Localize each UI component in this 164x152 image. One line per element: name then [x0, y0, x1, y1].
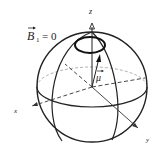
x-axis-arrowhead: [32, 102, 38, 106]
field-vector-arrowhead: [33, 27, 36, 30]
x-axis-label: x: [13, 107, 18, 115]
moment-label: μ: [95, 72, 101, 83]
y-axis-label: y: [145, 136, 150, 144]
bloch-sphere-diagram: z x y B 1 = 0 μ: [0, 0, 164, 152]
precession-circle: [75, 37, 105, 53]
magnetic-moment-arrowhead: [96, 54, 101, 62]
field-value: = 0: [42, 30, 57, 42]
moment-vector-arrowhead: [102, 70, 105, 72]
field-label: B: [27, 29, 35, 43]
z-axis-label: z: [88, 7, 93, 16]
x-axis: [32, 87, 92, 106]
meridian-left: [52, 32, 92, 141]
y-axis: [92, 87, 138, 128]
field-subscript: 1: [36, 36, 40, 44]
